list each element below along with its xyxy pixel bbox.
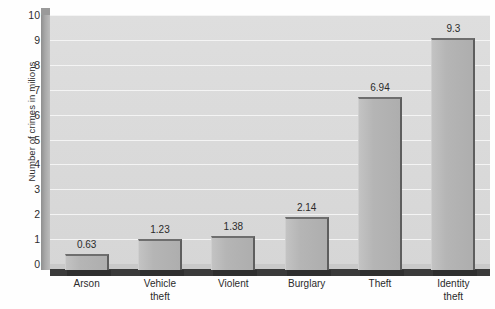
bar-base-shadow bbox=[360, 270, 404, 276]
plot-left-wall bbox=[41, 8, 50, 270]
bar bbox=[431, 38, 475, 270]
plot-area-wrapper: 0.631.231.382.146.949.3 bbox=[41, 8, 490, 276]
bar-group: 0.63 bbox=[65, 254, 109, 270]
bar bbox=[65, 254, 109, 270]
x-axis-category-labels: ArsonVehicletheftViolentBurglaryTheftIde… bbox=[50, 278, 490, 309]
bar-group: 1.23 bbox=[138, 239, 182, 270]
bar-group: 9.3 bbox=[431, 38, 475, 270]
y-axis-tick-10: 10 bbox=[18, 9, 40, 21]
bar bbox=[358, 97, 402, 270]
bar-group: 2.14 bbox=[285, 217, 329, 270]
x-axis-label-identity-theft: Identitytheft bbox=[417, 278, 490, 303]
y-axis-tick-4: 4 bbox=[18, 158, 40, 170]
bar-base-shadow bbox=[433, 270, 477, 276]
bar-base-shadow bbox=[67, 270, 111, 276]
bar-value-label: 2.14 bbox=[297, 202, 316, 213]
bar-group: 1.38 bbox=[211, 236, 255, 270]
bar-base-shadow bbox=[213, 270, 257, 276]
bar-base-shadow bbox=[140, 270, 184, 276]
y-axis-tick-9: 9 bbox=[18, 34, 40, 46]
bars-layer: 0.631.231.382.146.949.3 bbox=[50, 15, 490, 276]
y-axis-tick-labels: 109876543210 bbox=[18, 8, 40, 276]
y-axis-tick-1: 1 bbox=[18, 233, 40, 245]
x-axis-label-arson: Arson bbox=[50, 278, 123, 291]
plot-left-wall-cap bbox=[41, 8, 50, 15]
bar-value-label: 6.94 bbox=[370, 82, 389, 93]
bar-base-shadow bbox=[287, 270, 331, 276]
bar bbox=[211, 236, 255, 270]
bar-value-label: 1.23 bbox=[150, 224, 169, 235]
y-axis-tick-3: 3 bbox=[18, 183, 40, 195]
y-axis-tick-8: 8 bbox=[18, 59, 40, 71]
bar-value-label: 9.3 bbox=[446, 23, 460, 34]
y-axis-tick-2: 2 bbox=[18, 208, 40, 220]
y-axis-tick-6: 6 bbox=[18, 109, 40, 121]
bar-value-label: 0.63 bbox=[77, 239, 96, 250]
bar bbox=[285, 217, 329, 270]
bar-group: 6.94 bbox=[358, 97, 402, 270]
x-axis-label-theft: Theft bbox=[343, 278, 416, 291]
x-axis-label-burglary: Burglary bbox=[270, 278, 343, 291]
bar-value-label: 1.38 bbox=[224, 221, 243, 232]
x-axis-label-vehicle-theft: Vehicletheft bbox=[123, 278, 196, 303]
y-axis-tick-0: 0 bbox=[18, 258, 40, 270]
y-axis-tick-5: 5 bbox=[18, 134, 40, 146]
y-axis-tick-7: 7 bbox=[18, 84, 40, 96]
bar bbox=[138, 239, 182, 270]
bar-chart: Number of crimes in milions 109876543210… bbox=[0, 0, 495, 309]
x-axis-label-violent: Violent bbox=[197, 278, 270, 291]
